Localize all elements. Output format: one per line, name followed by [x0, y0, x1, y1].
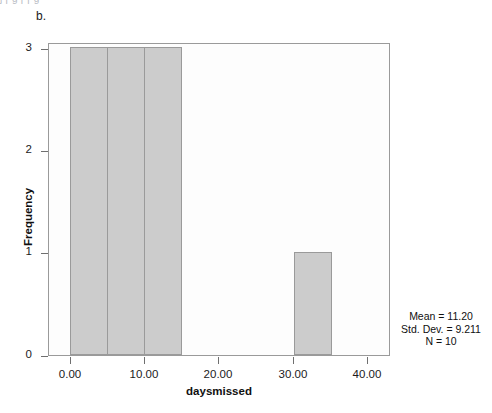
x-axis-title: daysmissed	[48, 385, 390, 397]
y-tick-label-3-text: 3	[26, 41, 37, 53]
y-axis-title-text: Frequency	[22, 188, 34, 246]
x-tick-30	[293, 357, 294, 364]
histogram-bar	[107, 47, 145, 355]
y-tick-2	[41, 151, 48, 152]
y-axis-title: Frequency	[9, 168, 23, 248]
histogram-chart: Frequency 0 1 2 3 0.00 10.00 20.00 30.00…	[0, 0, 492, 413]
statistics-annotation: Mean = 11.20 Std. Dev. = 9.211 N = 10	[392, 310, 490, 348]
x-tick-20	[218, 357, 219, 364]
x-tick-label-20: 20.00	[188, 368, 248, 380]
y-tick-label-0-text: 0	[26, 348, 37, 360]
x-tick-label-30: 30.00	[263, 368, 323, 380]
plot-area	[48, 43, 390, 356]
x-tick-label-10: 10.00	[114, 368, 174, 380]
y-tick-1	[41, 253, 48, 254]
histogram-bar	[70, 47, 108, 355]
stat-std-dev: Std. Dev. = 9.211	[392, 323, 490, 336]
y-tick-0	[41, 356, 48, 357]
x-tick-label-0: 0.00	[40, 368, 100, 380]
y-tick-3	[41, 49, 48, 50]
x-tick-label-40: 40.00	[337, 368, 397, 380]
y-tick-label-1-text: 1	[26, 245, 37, 257]
x-tick-0	[70, 357, 71, 364]
histogram-bar	[294, 252, 332, 355]
histogram-bar	[144, 47, 182, 355]
stat-n: N = 10	[392, 335, 490, 348]
y-tick-label-2-text: 2	[26, 143, 37, 155]
x-tick-10	[144, 357, 145, 364]
x-tick-40	[367, 357, 368, 364]
stat-mean: Mean = 11.20	[392, 310, 490, 323]
